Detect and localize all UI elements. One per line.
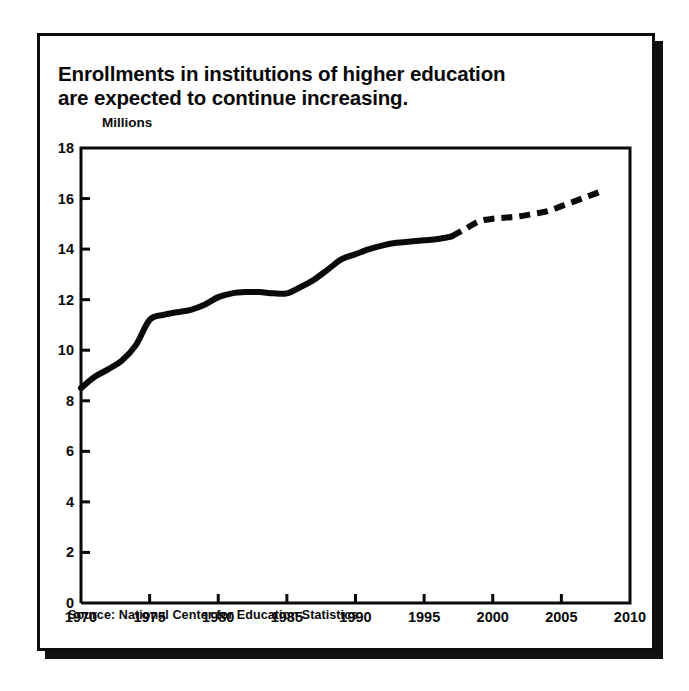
plot-area: 024681012141618 197019751980198519901995… xyxy=(40,36,658,654)
y-axis-tick-label: 12 xyxy=(38,292,74,308)
figure-frame: Enrollments in institutions of higher ed… xyxy=(37,33,655,651)
series-projected-enrollment-line xyxy=(452,191,603,237)
source-note: Source: National Center for Education St… xyxy=(68,608,358,622)
x-axis-tick-label: 2005 xyxy=(545,609,577,625)
y-axis-tick-label: 10 xyxy=(38,342,74,358)
x-axis-tick-label: 2000 xyxy=(477,609,509,625)
line-chart-svg xyxy=(40,36,658,654)
y-axis-tick-label: 2 xyxy=(38,544,74,560)
y-axis-tick-label: 18 xyxy=(38,140,74,156)
series-actual-enrollment-line xyxy=(81,236,452,388)
y-axis-tick-label: 16 xyxy=(38,191,74,207)
y-axis-tick-label: 14 xyxy=(38,241,74,257)
y-axis-tick-label: 4 xyxy=(38,494,74,510)
chart-tick-marks xyxy=(81,199,561,603)
y-axis-tick-label: 8 xyxy=(38,393,74,409)
y-axis-tick-label: 6 xyxy=(38,443,74,459)
chart-axes xyxy=(81,148,630,603)
x-axis-tick-label: 1995 xyxy=(408,609,440,625)
x-axis-tick-label: 2010 xyxy=(614,609,646,625)
